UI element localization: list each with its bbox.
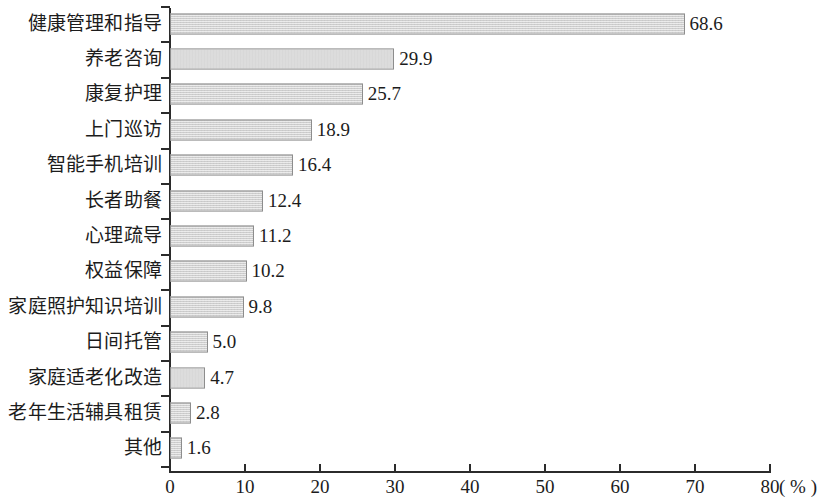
- x-axis-tick: [619, 464, 621, 472]
- category-label: 家庭适老化改造: [0, 368, 162, 388]
- chart-row: 长者助餐12.4: [0, 183, 818, 218]
- y-axis-tick: [161, 112, 170, 114]
- category-label: 智能手机培训: [0, 155, 162, 175]
- bar-value-label: 18.9: [317, 119, 350, 141]
- bar-value-label: 9.8: [249, 296, 273, 318]
- bar-value-label: 4.7: [210, 367, 234, 389]
- bar: [170, 296, 244, 317]
- bar: [170, 226, 254, 247]
- y-axis-tick: [161, 6, 170, 8]
- bar: [170, 403, 191, 424]
- category-label: 其他: [0, 439, 162, 459]
- x-axis-tick: [544, 464, 546, 472]
- chart-row: 家庭照护知识培训9.8: [0, 289, 818, 324]
- bar-chart: 健康管理和指导68.6养老咨询29.9康复护理25.7上门巡访18.9智能手机培…: [0, 0, 818, 501]
- bar-value-label: 5.0: [213, 331, 237, 353]
- chart-rows: 健康管理和指导68.6养老咨询29.9康复护理25.7上门巡访18.9智能手机培…: [0, 0, 818, 472]
- x-axis-tick-label: 40: [440, 476, 500, 498]
- chart-row: 老年生活辅具租赁2.8: [0, 395, 818, 430]
- x-axis-tick-label: 10: [215, 476, 275, 498]
- bar-value-label: 2.8: [196, 402, 220, 424]
- category-label: 权益保障: [0, 262, 162, 282]
- x-axis-tick: [694, 464, 696, 472]
- y-axis-tick: [161, 360, 170, 362]
- y-axis-tick: [161, 325, 170, 327]
- x-axis-tick-label: 50: [515, 476, 575, 498]
- x-axis-tick-label: 20: [290, 476, 350, 498]
- bar-value-label: 16.4: [298, 154, 331, 176]
- x-axis-tick: [469, 464, 471, 472]
- chart-row: 日间托管5.0: [0, 325, 818, 360]
- bar-value-label: 10.2: [252, 260, 285, 282]
- bar: [170, 84, 363, 105]
- category-label: 健康管理和指导: [0, 14, 162, 34]
- x-axis-tick: [394, 464, 396, 472]
- x-axis-tick: [769, 464, 771, 472]
- category-label: 上门巡访: [0, 120, 162, 140]
- chart-row: 健康管理和指导68.6: [0, 6, 818, 41]
- chart-row: 智能手机培训16.4: [0, 148, 818, 183]
- y-axis-tick: [161, 395, 170, 397]
- x-axis-tick: [169, 464, 171, 472]
- bar-value-label: 25.7: [368, 83, 401, 105]
- x-axis-tick-label: 70: [665, 476, 725, 498]
- chart-row: 上门巡访18.9: [0, 112, 818, 147]
- y-axis-tick: [161, 183, 170, 185]
- category-label: 长者助餐: [0, 191, 162, 211]
- category-label: 老年生活辅具租赁: [0, 403, 162, 423]
- bar: [170, 155, 293, 176]
- category-label: 养老咨询: [0, 49, 162, 69]
- bar-value-label: 11.2: [259, 225, 292, 247]
- x-axis-tick: [319, 464, 321, 472]
- bar: [170, 261, 247, 282]
- category-label: 心理疏导: [0, 226, 162, 246]
- x-axis-tick-label: 60: [590, 476, 650, 498]
- category-label: 家庭照护知识培训: [0, 297, 162, 317]
- chart-row: 康复护理25.7: [0, 77, 818, 112]
- x-axis-tick-label: 0: [140, 476, 200, 498]
- bar: [170, 438, 182, 459]
- y-axis-tick: [161, 41, 170, 43]
- bar: [170, 367, 205, 388]
- x-axis-unit-label: ( % ): [779, 476, 817, 498]
- chart-row: 心理疏导11.2: [0, 218, 818, 253]
- chart-row: 其他1.6: [0, 431, 818, 466]
- category-label: 康复护理: [0, 85, 162, 105]
- bar: [170, 332, 208, 353]
- bar-value-label: 29.9: [399, 48, 432, 70]
- x-axis-tick-label: 30: [365, 476, 425, 498]
- y-axis-tick: [161, 218, 170, 220]
- y-axis-tick: [161, 289, 170, 291]
- bar-value-label: 12.4: [268, 190, 301, 212]
- bar: [170, 13, 685, 34]
- y-axis-tick: [161, 431, 170, 433]
- y-axis-tick: [161, 77, 170, 79]
- chart-row: 养老咨询29.9: [0, 41, 818, 76]
- y-axis-tick: [161, 254, 170, 256]
- x-axis-tick: [244, 464, 246, 472]
- category-label: 日间托管: [0, 332, 162, 352]
- bar: [170, 119, 312, 140]
- bar-value-label: 68.6: [690, 13, 723, 35]
- chart-row: 权益保障10.2: [0, 254, 818, 289]
- chart-row: 家庭适老化改造4.7: [0, 360, 818, 395]
- y-axis-tick: [161, 148, 170, 150]
- bar: [170, 49, 394, 70]
- bar-value-label: 1.6: [187, 437, 211, 459]
- bar: [170, 190, 263, 211]
